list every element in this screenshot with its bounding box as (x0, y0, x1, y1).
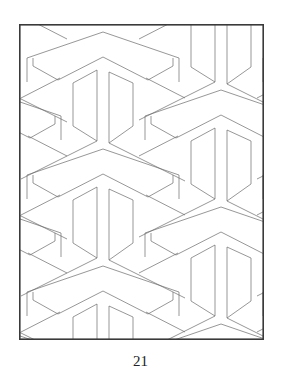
pattern-artwork (19, 24, 264, 340)
pattern-line (176, 232, 264, 255)
pattern-line (227, 184, 251, 201)
pattern-line (19, 90, 61, 116)
pattern-line (109, 243, 133, 260)
pattern-line (191, 67, 215, 82)
pattern-line (227, 301, 251, 318)
pattern-line (73, 304, 97, 317)
coloring-page: 21 (0, 0, 281, 385)
pattern-line (19, 232, 30, 255)
pattern-line (19, 201, 67, 239)
pattern-line (58, 291, 148, 314)
pattern-line (73, 70, 97, 83)
pattern-line (148, 292, 173, 314)
pattern-line (19, 207, 61, 233)
pattern-line (19, 115, 30, 138)
pattern-line (191, 184, 215, 199)
pattern-line (151, 116, 176, 138)
pattern-line (139, 24, 178, 39)
pattern-line (19, 324, 61, 340)
pattern-line (148, 175, 173, 197)
pattern-line (191, 301, 215, 316)
y-block-pattern-drawing (19, 24, 264, 340)
pattern-line (145, 324, 264, 340)
pattern-line (151, 233, 176, 255)
pattern-line (27, 149, 179, 175)
pattern-line (227, 67, 251, 84)
pattern-line (148, 58, 173, 80)
pattern-line (109, 260, 185, 298)
pattern-line (27, 32, 179, 58)
pattern-line (109, 306, 133, 317)
pattern-line (109, 189, 133, 200)
pattern-lines (19, 24, 264, 340)
pattern-line (191, 128, 215, 141)
pattern-line (28, 24, 67, 39)
pattern-line (58, 174, 148, 197)
pattern-line (58, 57, 148, 80)
pattern-line (33, 58, 58, 80)
pattern-line (33, 292, 58, 314)
pattern-line (30, 233, 55, 255)
pattern-line (176, 115, 264, 138)
pattern-line (109, 126, 133, 143)
pattern-line (27, 266, 179, 292)
pattern-line (73, 187, 97, 200)
pattern-line (30, 116, 55, 138)
pattern-line (191, 245, 215, 258)
pattern-line (227, 130, 251, 141)
pattern-line (19, 84, 67, 122)
pattern-line (227, 247, 251, 258)
pattern-line (73, 126, 97, 141)
pattern-line (73, 243, 97, 258)
pattern-line (109, 143, 185, 181)
pattern-line (109, 72, 133, 83)
pattern-line (33, 175, 58, 197)
page-number: 21 (0, 353, 281, 370)
